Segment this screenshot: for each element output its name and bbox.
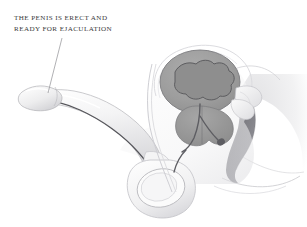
anatomy-figure: THE PENIS IS ERECT AND READY FOR EJACULA…: [0, 0, 307, 227]
glans: [18, 86, 62, 111]
leader-line: [48, 38, 62, 93]
caption-line-1: THE PENIS IS ERECT AND: [14, 14, 107, 22]
seminal-vesicle: [231, 86, 262, 120]
caption-line-2: READY FOR EJACULATION: [14, 25, 112, 33]
anatomy-illustration: THE PENIS IS ERECT AND READY FOR EJACULA…: [0, 0, 307, 227]
